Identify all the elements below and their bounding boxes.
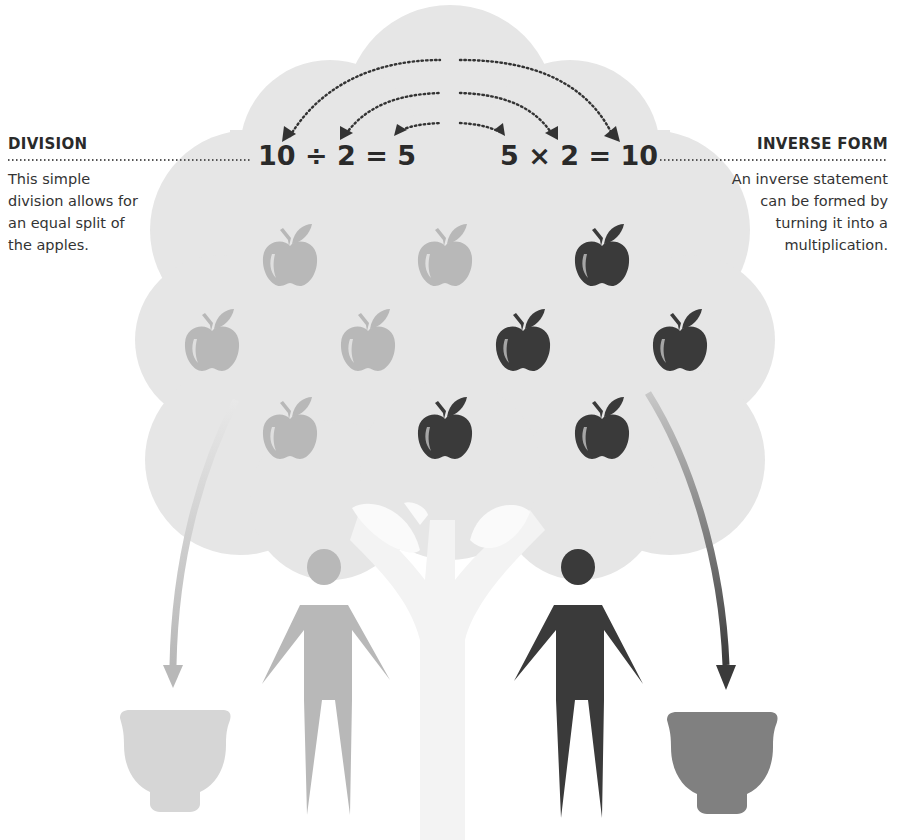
illustration [0,0,902,840]
division-title: DIVISION [8,135,138,153]
person-dark [514,549,643,818]
inverse-form-annotation: INVERSE FORM An inverse statement can be… [728,135,888,256]
multiplication-equation: 5 × 2 = 10 [500,140,658,171]
inverse-form-title: INVERSE FORM [728,135,888,153]
inverse-form-description: An inverse statement can be formed by tu… [728,168,888,256]
division-annotation: DIVISION This simple division allows for… [8,135,138,256]
tree-trunk [350,502,545,840]
bowl-dark [667,712,778,814]
tree-canopy [135,5,775,580]
bowl-light [120,710,231,812]
division-description: This simple division allows for an equal… [8,168,138,256]
person-light [262,549,390,815]
division-equation: 10 ÷ 2 = 5 [258,140,416,171]
